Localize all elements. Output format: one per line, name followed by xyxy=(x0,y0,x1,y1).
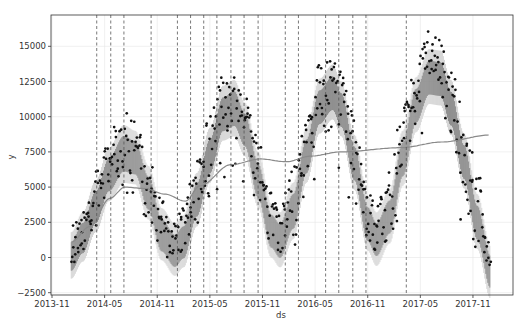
y-tick-label: −2500 xyxy=(17,288,46,298)
x-tick-label: 2016-05 xyxy=(297,299,333,309)
x-tick-label: 2015-05 xyxy=(192,299,228,309)
y-axis-label: y xyxy=(6,154,16,159)
x-tick-label: 2017-05 xyxy=(403,299,439,309)
y-tick-label: 0 xyxy=(41,253,46,263)
y-axis-ticks: −25000250050007500100001250015000 xyxy=(17,41,51,297)
y-tick-label: 5000 xyxy=(24,182,46,192)
x-tick-label: 2017-11 xyxy=(455,299,491,309)
y-tick-label: 10000 xyxy=(19,112,46,122)
y-tick-label: 12500 xyxy=(19,77,46,87)
x-axis-label: ds xyxy=(276,310,286,320)
x-tick-label: 2013-11 xyxy=(34,299,70,309)
x-axis-ticks: 2013-112014-052014-112015-052015-112016-… xyxy=(34,295,490,309)
x-tick-label: 2015-11 xyxy=(245,299,281,309)
prophet-forecast-chart: 2013-112014-052014-112015-052015-112016-… xyxy=(0,0,527,330)
y-tick-label: 2500 xyxy=(24,217,46,227)
x-tick-label: 2014-05 xyxy=(87,299,123,309)
y-tick-label: 7500 xyxy=(24,147,46,157)
x-tick-label: 2014-11 xyxy=(139,299,175,309)
y-tick-label: 15000 xyxy=(19,41,46,51)
x-tick-label: 2016-11 xyxy=(350,299,386,309)
